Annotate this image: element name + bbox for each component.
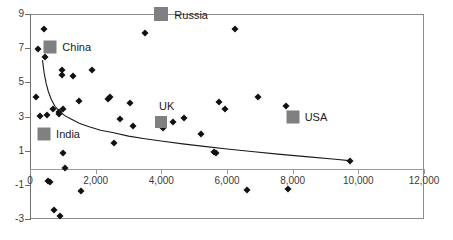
x-tick-mark (293, 169, 294, 174)
x-tick-label: 6,000 (204, 176, 250, 186)
y-tick-label: -3 (0, 214, 24, 224)
x-tick-label: 12,000 (401, 176, 447, 186)
x-tick-mark (30, 169, 31, 174)
y-tick-label: 9 (0, 9, 24, 19)
y-tick-label: 5 (0, 77, 24, 87)
y-tick-mark (25, 82, 31, 83)
x-tick-mark (358, 169, 359, 174)
x-tick-label: 10,000 (335, 176, 381, 186)
y-tick-mark (25, 48, 31, 49)
y-tick-label: 1 (0, 146, 24, 156)
country-square-icon (154, 7, 168, 21)
country-label: India (56, 129, 80, 140)
country-square-icon (155, 116, 167, 128)
x-tick-label: 2,000 (73, 176, 119, 186)
x-tick-mark (227, 169, 228, 174)
y-tick-label: 7 (0, 43, 24, 53)
x-tick-mark (161, 169, 162, 174)
x-tick-mark (424, 169, 425, 174)
country-label: China (62, 42, 91, 53)
country-label: Russia (174, 10, 208, 21)
country-square-icon (38, 128, 51, 141)
y-tick-mark (25, 151, 31, 152)
scatter-chart: -3-113579 02,0004,0006,0008,00010,00012,… (0, 0, 453, 240)
x-tick-label: 8,000 (270, 176, 316, 186)
country-label: UK (159, 101, 174, 112)
y-tick-mark (25, 14, 31, 15)
country-label: USA (305, 112, 328, 123)
y-tick-label: 3 (0, 112, 24, 122)
country-square-icon (286, 110, 299, 123)
x-tick-label: 4,000 (138, 176, 184, 186)
y-tick-mark (25, 117, 31, 118)
x-tick-mark (96, 169, 97, 174)
country-square-icon (44, 41, 57, 54)
y-tick-mark (25, 219, 31, 220)
